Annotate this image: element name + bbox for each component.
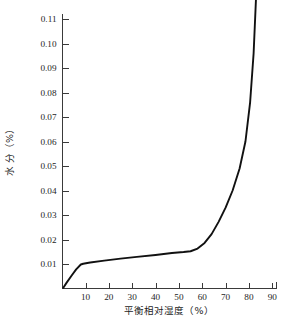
x-tick-label: 60 (198, 292, 208, 302)
sorption-isotherm-chart: 0.010.020.030.040.050.060.070.080.090.10… (0, 0, 289, 329)
y-tick-label: 0.01 (40, 259, 56, 269)
y-tick-label: 0.03 (40, 210, 56, 220)
y-tick-label: 0.08 (40, 88, 56, 98)
y-tick-label: 0.09 (40, 63, 56, 73)
y-tick-label: 0.04 (40, 186, 56, 196)
axis-lines (63, 14, 277, 289)
x-tick-label: 20 (104, 292, 114, 302)
x-tick-label: 30 (128, 292, 138, 302)
y-tick-label: 0.11 (41, 14, 57, 24)
x-tick-label: 80 (244, 292, 254, 302)
x-tick-label: 90 (268, 292, 278, 302)
y-tick-label: 0.02 (40, 235, 56, 245)
y-tick-label: 0.06 (40, 137, 56, 147)
x-axis-ticks: 102030405060708090 (81, 283, 277, 303)
moisture-sorption-curve (63, 0, 256, 288)
y-tick-label: 0.05 (40, 161, 56, 171)
y-tick-label: 0.07 (40, 112, 56, 122)
x-tick-label: 10 (81, 292, 91, 302)
x-tick-label: 70 (221, 292, 231, 302)
y-tick-label: 0.10 (40, 39, 56, 49)
x-tick-label: 50 (174, 292, 184, 302)
x-axis-title: 平衡相对湿度（%） (124, 305, 213, 316)
chart-figure: 0.010.020.030.040.050.060.070.080.090.10… (0, 0, 289, 329)
x-tick-label: 40 (151, 292, 161, 302)
y-axis-title: 水 分（%） (4, 124, 15, 176)
y-axis-ticks: 0.010.020.030.040.050.060.070.080.090.10… (40, 0, 68, 269)
